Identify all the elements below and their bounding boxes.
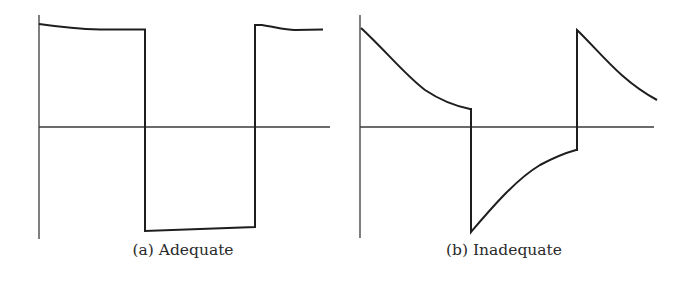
- panel-b-plot: [360, 15, 657, 238]
- square-wave-figure: [0, 0, 688, 283]
- panel-a-caption: (a) Adequate: [132, 241, 233, 259]
- panel-a-plot: [39, 15, 330, 239]
- panel-b-caption: (b) Inadequate: [446, 241, 562, 259]
- panel-b-waveform: [361, 28, 657, 232]
